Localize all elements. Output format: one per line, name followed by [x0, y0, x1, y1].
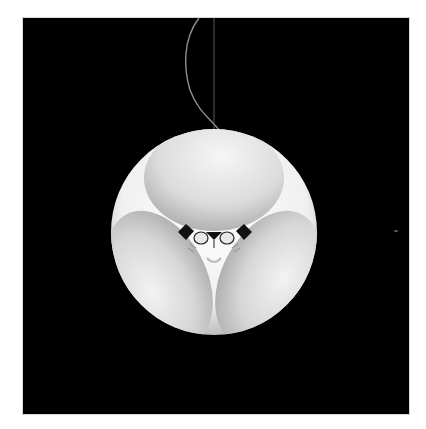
top-shade [144, 125, 284, 231]
pendant-lamp-illustration [0, 0, 426, 429]
suspension-cords [186, 18, 219, 130]
dust-speck [394, 230, 398, 232]
